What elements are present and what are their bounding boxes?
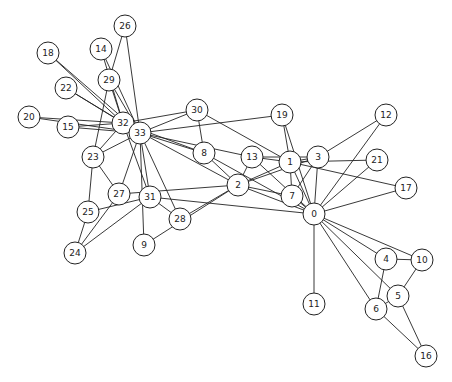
node-label: 5 bbox=[395, 291, 401, 301]
node-9: 9 bbox=[133, 234, 155, 256]
node-6: 6 bbox=[365, 298, 387, 320]
node-19: 19 bbox=[271, 104, 293, 126]
node-label: 22 bbox=[60, 83, 71, 93]
node-label: 20 bbox=[23, 112, 35, 122]
edge-0-10 bbox=[314, 214, 422, 260]
edge-0-6 bbox=[314, 214, 376, 309]
node-label: 30 bbox=[191, 105, 203, 115]
node-26: 26 bbox=[114, 15, 136, 37]
edge-0-17 bbox=[314, 188, 406, 214]
edge-0-21 bbox=[314, 160, 377, 214]
node-22: 22 bbox=[55, 77, 77, 99]
node-3: 3 bbox=[307, 146, 329, 168]
node-label: 1 bbox=[287, 157, 293, 167]
node-18: 18 bbox=[37, 42, 59, 64]
node-12: 12 bbox=[375, 104, 397, 126]
node-10: 10 bbox=[411, 249, 433, 271]
node-label: 3 bbox=[315, 152, 321, 162]
node-28: 28 bbox=[169, 208, 191, 230]
node-33: 33 bbox=[129, 122, 151, 144]
node-11: 11 bbox=[303, 293, 325, 315]
node-label: 33 bbox=[134, 128, 145, 138]
node-29: 29 bbox=[98, 69, 120, 91]
node-label: 27 bbox=[113, 189, 124, 199]
node-label: 17 bbox=[400, 183, 411, 193]
node-2: 2 bbox=[227, 174, 249, 196]
node-label: 15 bbox=[62, 122, 73, 132]
node-25: 25 bbox=[77, 201, 99, 223]
node-label: 11 bbox=[308, 299, 319, 309]
node-0: 0 bbox=[303, 203, 325, 225]
edge-23-29 bbox=[93, 80, 109, 157]
node-20: 20 bbox=[18, 106, 40, 128]
node-label: 23 bbox=[87, 152, 98, 162]
node-1: 1 bbox=[279, 151, 301, 173]
node-label: 7 bbox=[289, 191, 295, 201]
node-7: 7 bbox=[281, 185, 303, 207]
node-label: 31 bbox=[144, 192, 155, 202]
node-label: 19 bbox=[276, 110, 288, 120]
node-label: 29 bbox=[103, 75, 115, 85]
node-label: 21 bbox=[371, 155, 382, 165]
node-8: 8 bbox=[193, 142, 215, 164]
node-label: 26 bbox=[119, 21, 131, 31]
edge-1-21 bbox=[290, 160, 377, 162]
node-30: 30 bbox=[186, 99, 208, 121]
node-label: 28 bbox=[174, 214, 186, 224]
edge-1-17 bbox=[290, 162, 406, 188]
edge-2-27 bbox=[119, 185, 238, 194]
node-label: 6 bbox=[373, 304, 379, 314]
node-21: 21 bbox=[366, 149, 388, 171]
node-24: 24 bbox=[64, 242, 86, 264]
node-label: 14 bbox=[95, 44, 107, 54]
node-label: 0 bbox=[311, 209, 317, 219]
node-label: 10 bbox=[416, 255, 428, 265]
node-label: 16 bbox=[420, 351, 432, 361]
node-label: 25 bbox=[82, 207, 93, 217]
node-label: 4 bbox=[383, 254, 389, 264]
node-31: 31 bbox=[139, 186, 161, 208]
network-graph: 0123456789101112131415161718192021222324… bbox=[0, 0, 452, 382]
node-13: 13 bbox=[241, 146, 263, 168]
node-17: 17 bbox=[395, 177, 417, 199]
node-15: 15 bbox=[57, 116, 79, 138]
node-label: 9 bbox=[141, 240, 147, 250]
node-label: 2 bbox=[235, 180, 241, 190]
node-14: 14 bbox=[90, 38, 112, 60]
node-4: 4 bbox=[375, 248, 397, 270]
node-label: 32 bbox=[117, 118, 128, 128]
node-label: 12 bbox=[380, 110, 391, 120]
node-5: 5 bbox=[387, 285, 409, 307]
node-27: 27 bbox=[108, 183, 130, 205]
node-label: 18 bbox=[42, 48, 54, 58]
edge-0-4 bbox=[314, 214, 386, 259]
node-16: 16 bbox=[415, 345, 437, 367]
node-23: 23 bbox=[82, 146, 104, 168]
node-label: 8 bbox=[201, 148, 207, 158]
node-label: 24 bbox=[69, 248, 81, 258]
node-label: 13 bbox=[246, 152, 257, 162]
